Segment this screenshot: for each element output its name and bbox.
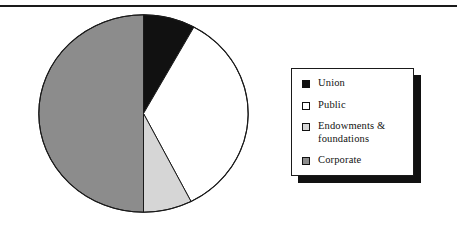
legend-item-union[interactable]: Union [302, 77, 408, 90]
legend-label-endowments-foundations: Endowments & foundations [318, 120, 408, 145]
legend: Union Public Endowments & foundations Co… [291, 68, 414, 176]
pie-svg [38, 14, 249, 213]
legend-swatch-union [302, 80, 310, 88]
legend-swatch-corporate [302, 157, 310, 165]
clipped-caption-text [255, 0, 445, 4]
pie-chart-figure: Union Public Endowments & foundations Co… [0, 0, 457, 227]
legend-item-endowments-foundations[interactable]: Endowments & foundations [302, 120, 408, 145]
legend-item-public[interactable]: Public [302, 99, 408, 112]
pie-slice[interactable] [39, 15, 144, 212]
legend-item-list: Union Public Endowments & foundations Co… [291, 68, 414, 176]
legend-swatch-public [302, 102, 310, 110]
legend-label-corporate: Corporate [318, 154, 361, 167]
legend-label-public: Public [318, 99, 346, 112]
header-rule [0, 5, 457, 7]
pie-slice-group [39, 15, 248, 212]
legend-item-corporate[interactable]: Corporate [302, 154, 408, 167]
pie-chart [38, 14, 249, 213]
legend-swatch-endowments-foundations [302, 123, 310, 131]
legend-label-union: Union [318, 77, 345, 90]
